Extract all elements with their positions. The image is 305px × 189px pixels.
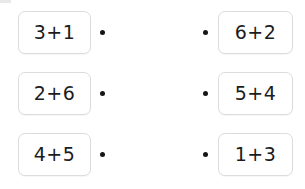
expression-card-right[interactable]: 5+4 [218, 72, 293, 115]
match-row: 2+6 5+4 [0, 72, 305, 116]
expression-card-left[interactable]: 3+1 [18, 11, 91, 54]
expression-text: 2+6 [34, 84, 76, 103]
expression-text: 6+2 [235, 23, 277, 42]
matching-exercise: 3+1 6+2 2+6 5+4 4+5 1+3 [0, 0, 305, 189]
connector-dot-right[interactable] [203, 30, 208, 35]
expression-text: 3+1 [34, 23, 76, 42]
expression-text: 5+4 [235, 84, 277, 103]
expression-card-left[interactable]: 4+5 [18, 133, 91, 176]
expression-card-left[interactable]: 2+6 [18, 72, 91, 115]
connector-dot-left[interactable] [100, 30, 105, 35]
expression-card-right[interactable]: 1+3 [218, 133, 293, 176]
connector-dot-right[interactable] [203, 152, 208, 157]
connector-dot-left[interactable] [100, 91, 105, 96]
expression-card-right[interactable]: 6+2 [218, 11, 293, 54]
connector-dot-left[interactable] [100, 152, 105, 157]
match-row: 4+5 1+3 [0, 133, 305, 177]
corner-artifact [0, 0, 11, 3]
expression-text: 1+3 [235, 145, 277, 164]
expression-text: 4+5 [34, 145, 76, 164]
connector-dot-right[interactable] [203, 91, 208, 96]
match-row: 3+1 6+2 [0, 11, 305, 55]
